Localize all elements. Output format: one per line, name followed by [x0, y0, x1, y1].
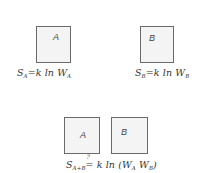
eq-a-op: =	[28, 67, 36, 78]
eq-a-rhs-sub: A	[67, 73, 71, 79]
entropy-b-equation: SB=k ln WB	[135, 67, 189, 79]
eq-ab-rhs-mid: W	[136, 159, 149, 170]
eq-b-lhs: S	[135, 67, 142, 78]
eq-b-op: =	[146, 67, 154, 78]
eq-a-lhs: S	[17, 67, 24, 78]
eq-b-rhs: k ln W	[154, 67, 185, 78]
system-b-box: B	[140, 26, 174, 63]
combined-system-a-label: A	[80, 130, 86, 140]
eq-ab-rhs-suffix: )	[153, 159, 157, 170]
combined-system-b-box: B	[111, 117, 148, 154]
question-mark: ?	[87, 153, 90, 160]
system-a-box: A	[36, 26, 71, 63]
combined-entropy-equation: SA+B?= k ln (WA WB)	[66, 159, 157, 171]
system-b-label: B	[149, 33, 155, 43]
combined-system-a-box: A	[64, 117, 100, 154]
eq-a-rhs: k ln W	[36, 67, 67, 78]
eq-ab-rhs-prefix: k ln (W	[97, 159, 132, 170]
eq-ab-op: =	[86, 159, 94, 170]
system-a-label: A	[53, 32, 59, 42]
entropy-a-equation: SA=k ln WA	[17, 67, 71, 79]
eq-ab-lhs-sub: A+B	[73, 165, 86, 171]
eq-ab-questioned-equals: ?=	[86, 159, 94, 170]
eq-ab-lhs: S	[66, 159, 73, 170]
eq-b-rhs-sub: B	[185, 73, 189, 79]
combined-system-b-label: B	[121, 127, 127, 137]
